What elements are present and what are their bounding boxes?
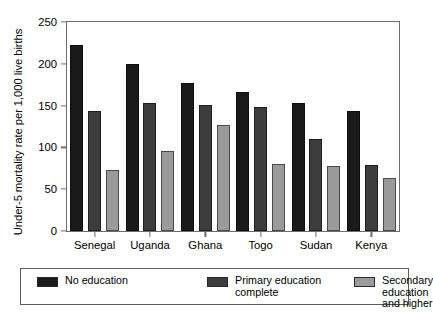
- plot-area: [66, 21, 400, 232]
- bar: [126, 64, 139, 231]
- bar: [106, 170, 119, 231]
- bar: [254, 107, 267, 231]
- x-tick-mark: [315, 232, 316, 237]
- legend: No educationPrimary education completeSe…: [20, 268, 409, 305]
- y-tick-mark: [61, 230, 66, 231]
- bar: [292, 103, 305, 231]
- bar: [181, 83, 194, 231]
- x-tick-mark: [371, 232, 372, 237]
- x-tick-label: Togo: [248, 239, 273, 251]
- bar: [272, 164, 285, 231]
- legend-label: No education: [65, 275, 128, 287]
- x-tick-label: Senegal: [74, 239, 115, 251]
- y-tick-label: 0: [51, 225, 57, 237]
- bar: [143, 103, 156, 231]
- x-tick-label: Ghana: [188, 239, 222, 251]
- y-tick-label: 250: [38, 16, 57, 28]
- bar: [236, 92, 249, 231]
- bar: [88, 111, 101, 231]
- bar-group: [288, 22, 343, 231]
- bar: [70, 45, 83, 231]
- bar: [309, 139, 322, 231]
- legend-swatch: [37, 277, 58, 287]
- legend-item: No education: [37, 275, 128, 287]
- y-tick-label: 50: [44, 183, 57, 195]
- y-tick-label: 100: [38, 141, 57, 153]
- bar: [365, 165, 378, 231]
- y-tick-label: 200: [38, 58, 57, 70]
- legend-item: Primary education complete: [207, 275, 321, 298]
- bar: [161, 151, 174, 231]
- y-tick-label: 150: [38, 100, 57, 112]
- y-tick-mark: [61, 21, 66, 22]
- y-axis-title: Under-5 mortality rate per 1,000 live bi…: [12, 18, 24, 246]
- legend-label: Primary education complete: [235, 275, 321, 298]
- x-tick-label: Sudan: [300, 239, 333, 251]
- legend-swatch: [207, 277, 228, 287]
- bar-group: [233, 22, 288, 231]
- bar: [199, 105, 212, 231]
- bar-group: [122, 22, 177, 231]
- x-tick-mark: [149, 232, 150, 237]
- legend-swatch: [354, 277, 375, 287]
- x-tick-mark: [205, 232, 206, 237]
- bar: [383, 178, 396, 231]
- y-tick-mark: [61, 63, 66, 64]
- plot-inner: [67, 22, 399, 231]
- y-tick-mark: [61, 189, 66, 190]
- x-tick-mark: [260, 232, 261, 237]
- legend-item: Secondary education and higher: [354, 275, 433, 310]
- y-tick-mark: [61, 105, 66, 106]
- y-tick-mark: [61, 147, 66, 148]
- bar-group: [67, 22, 122, 231]
- x-tick-label: Kenya: [355, 239, 387, 251]
- bar: [347, 111, 360, 231]
- legend-label: Secondary education and higher: [382, 275, 433, 310]
- bar-group: [344, 22, 399, 231]
- bar: [217, 125, 230, 231]
- x-tick-label: Uganda: [130, 239, 170, 251]
- x-tick-mark: [94, 232, 95, 237]
- bar: [327, 166, 340, 231]
- bar-group: [178, 22, 233, 231]
